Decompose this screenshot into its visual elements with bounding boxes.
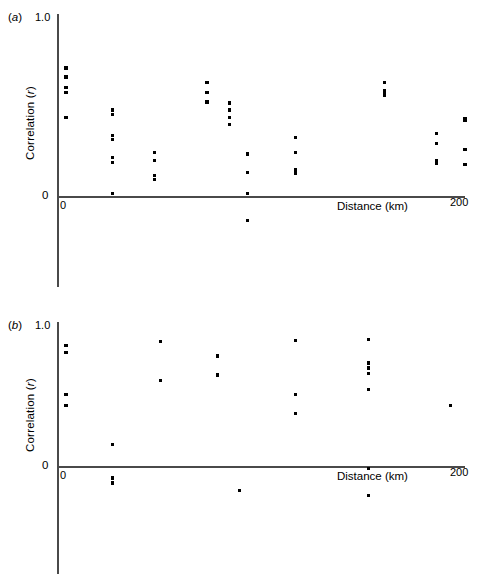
data-point bbox=[463, 148, 466, 151]
data-point bbox=[111, 161, 114, 164]
data-point bbox=[383, 81, 386, 84]
data-point bbox=[153, 159, 156, 162]
data-point bbox=[435, 142, 438, 145]
data-point bbox=[159, 340, 162, 343]
data-point bbox=[216, 373, 219, 376]
panel-a: (a) 1.0 0 Correlation (r) Distance (km) … bbox=[0, 0, 482, 287]
data-point bbox=[153, 174, 156, 177]
data-point bbox=[228, 116, 231, 119]
figure-canvas: (a) 1.0 0 Correlation (r) Distance (km) … bbox=[0, 0, 482, 574]
data-point bbox=[111, 481, 114, 484]
data-point bbox=[216, 354, 219, 357]
data-point bbox=[228, 108, 231, 111]
data-point bbox=[64, 404, 67, 407]
data-point bbox=[64, 344, 67, 347]
data-point bbox=[64, 116, 67, 119]
data-point bbox=[435, 132, 438, 135]
data-point bbox=[294, 393, 297, 396]
data-point bbox=[367, 366, 370, 369]
data-point bbox=[205, 81, 208, 84]
data-point bbox=[449, 404, 452, 407]
data-point bbox=[159, 379, 162, 382]
panel-b-points-layer bbox=[0, 287, 482, 574]
data-point bbox=[367, 361, 370, 364]
data-point bbox=[64, 86, 67, 89]
data-point bbox=[111, 108, 114, 111]
data-point bbox=[111, 113, 114, 116]
data-point bbox=[294, 136, 297, 139]
panel-b: (b) 1.0 0 Correlation (r) Distance (km) … bbox=[0, 287, 482, 574]
data-point bbox=[111, 134, 114, 137]
data-point bbox=[111, 443, 114, 446]
data-point bbox=[246, 219, 249, 222]
data-point bbox=[367, 388, 370, 391]
data-point bbox=[246, 192, 249, 195]
data-point bbox=[383, 94, 386, 97]
data-point bbox=[205, 100, 208, 103]
data-point bbox=[294, 339, 297, 342]
data-point bbox=[246, 152, 249, 155]
data-point bbox=[228, 101, 231, 104]
data-point bbox=[367, 494, 370, 497]
data-point bbox=[153, 151, 156, 154]
data-point bbox=[64, 75, 67, 78]
data-point bbox=[294, 151, 297, 154]
data-point bbox=[367, 372, 370, 375]
data-point bbox=[246, 171, 249, 174]
data-point bbox=[205, 91, 208, 94]
data-point bbox=[64, 393, 67, 396]
data-point bbox=[64, 351, 67, 354]
data-point bbox=[435, 162, 438, 165]
data-point bbox=[111, 138, 114, 141]
data-point bbox=[367, 467, 370, 470]
data-point bbox=[153, 178, 156, 181]
data-point bbox=[294, 172, 297, 175]
data-point bbox=[111, 476, 114, 479]
data-point bbox=[463, 119, 466, 122]
data-point bbox=[463, 163, 466, 166]
data-point bbox=[294, 412, 297, 415]
data-point bbox=[111, 192, 114, 195]
data-point bbox=[238, 489, 241, 492]
data-point bbox=[367, 338, 370, 341]
data-point bbox=[228, 123, 231, 126]
data-point bbox=[111, 156, 114, 159]
data-point bbox=[64, 66, 67, 69]
data-point bbox=[64, 91, 67, 94]
panel-a-points-layer bbox=[0, 0, 482, 287]
